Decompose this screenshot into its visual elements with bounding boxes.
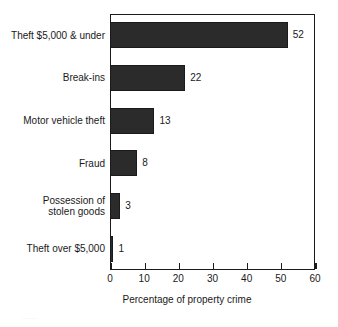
footer-artifact-text: ········ [22,315,37,321]
bar-value-label: 8 [142,158,148,168]
bar-row: 13 [110,108,171,134]
bar-rect [110,22,288,48]
bar-chart-figure: 522213831 Theft $5,000 & underBreak-insM… [0,0,338,327]
x-axis-tick-mark [315,263,316,269]
bar-value-label: 52 [293,30,304,40]
category-label: Possession of stolen goods [0,195,105,218]
bar-value-label: 22 [190,73,201,83]
bar-value-label: 3 [125,201,131,211]
bar-rect [110,65,185,91]
bar-rect [110,150,137,176]
x-axis-tick-label: 30 [198,274,228,284]
bars-area: 522213831 [110,14,315,270]
x-axis-tick-label: 60 [300,274,330,284]
bar-rect [110,193,120,219]
bar-rect [110,108,154,134]
category-label: Break-ins [0,72,105,84]
bar-value-label: 13 [159,116,170,126]
category-label: Motor vehicle theft [0,115,105,127]
x-axis-tick-label: 10 [129,274,159,284]
bar-row: 3 [110,193,131,219]
category-label: Theft $5,000 & under [0,30,105,42]
bar-value-label: 1 [118,244,124,254]
bar-row: 52 [110,22,304,48]
bar-rect [110,236,113,262]
category-label: Fraud [0,158,105,170]
x-axis-title: Percentage of property crime [0,294,338,305]
x-axis-tick-label: 40 [232,274,262,284]
x-axis-tick-label: 0 [95,274,125,284]
bar-row: 8 [110,150,148,176]
x-axis-tick-label: 50 [266,274,296,284]
category-label: Theft over $5,000 [0,243,105,255]
bar-row: 1 [110,236,124,262]
x-axis-tick-label: 20 [163,274,193,284]
bar-row: 22 [110,65,201,91]
